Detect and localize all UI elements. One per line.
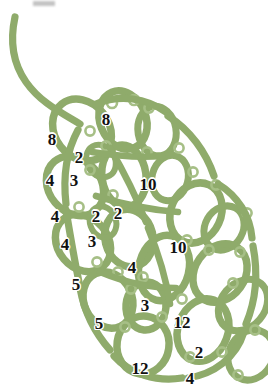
count-4-bottom-right: 4 — [186, 370, 195, 387]
pattern-diagram-canvas: 882431042243105453122124 — [0, 0, 268, 392]
count-3-mid: 3 — [88, 233, 97, 250]
count-8-upper-inner: 8 — [102, 111, 111, 128]
count-2-bottom-right: 2 — [195, 344, 204, 361]
count-10-mid-right: 10 — [170, 239, 187, 256]
count-4-lower-mid: 4 — [128, 259, 137, 276]
count-8-upper-left: 8 — [48, 131, 57, 148]
count-2-mid-a: 2 — [92, 208, 101, 225]
count-3-lower-ring: 3 — [141, 297, 150, 314]
count-12-bottom: 12 — [132, 360, 149, 377]
count-2-upper-left: 2 — [75, 149, 84, 166]
count-12-lower-right: 12 — [174, 314, 191, 331]
count-10-upper-right: 10 — [140, 176, 157, 193]
count-5-lower-left-2: 5 — [95, 315, 104, 332]
count-2-mid-b: 2 — [114, 205, 123, 222]
count-5-lower-left: 5 — [72, 276, 81, 293]
count-4-mid-left: 4 — [51, 208, 60, 225]
count-4-upper-left: 4 — [46, 172, 55, 189]
count-4-mid-left-2: 4 — [61, 236, 70, 253]
stitch-count-labels: 882431042243105453122124 — [0, 0, 268, 392]
count-3-upper-left: 3 — [70, 172, 79, 189]
